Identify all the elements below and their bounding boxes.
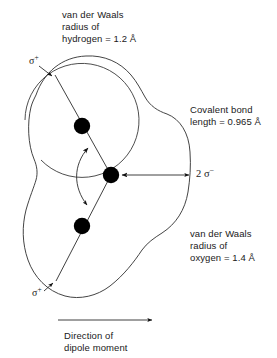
two-sigma-charge: − — [210, 166, 215, 175]
atom-hydrogen-bottom — [74, 218, 90, 234]
oxygen-partial-charge-label: 2 σ− — [196, 168, 214, 179]
vdw-oxygen-radius-label: van der Waals radius of oxygen = 1.4 Å — [190, 228, 255, 265]
vdw-hydrogen-radius-label: van der Waals radius of hydrogen = 1.2 Å — [62, 9, 136, 46]
dipole-direction-caption: Direction of dipole moment — [64, 330, 128, 354]
leader-line-sigma-plus-top — [39, 66, 52, 76]
covalent-bond-length-label: Covalent bond length = 0.965 Å — [190, 104, 261, 128]
covalent-bonds — [55, 75, 111, 281]
hydrogen-partial-charge-bottom-label: σ+ — [32, 287, 42, 298]
sigma-charge-top: + — [34, 53, 38, 62]
bond-angle-arc — [77, 148, 88, 205]
water-molecule-diagram — [0, 0, 277, 358]
two-sigma-number: 2 — [196, 168, 204, 179]
atom-oxygen — [103, 167, 119, 183]
atom-hydrogen-top — [74, 118, 90, 134]
sigma-charge-bottom: + — [37, 285, 41, 294]
hydrogen-partial-charge-top-label: σ+ — [29, 55, 39, 66]
